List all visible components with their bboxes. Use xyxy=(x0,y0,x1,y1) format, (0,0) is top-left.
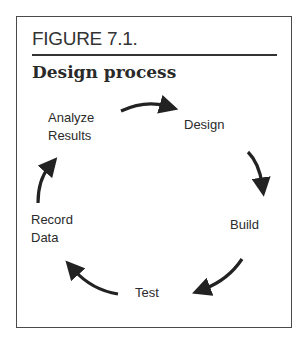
cycle-arrows xyxy=(0,0,308,346)
arrow-design-to-build-icon xyxy=(248,152,262,184)
arrow-analyze-to-design-icon xyxy=(121,104,166,111)
arrow-build-to-test-icon xyxy=(204,259,242,289)
arrow-test-to-record-icon xyxy=(74,270,118,294)
arrow-record-to-analyze-icon xyxy=(38,167,49,203)
